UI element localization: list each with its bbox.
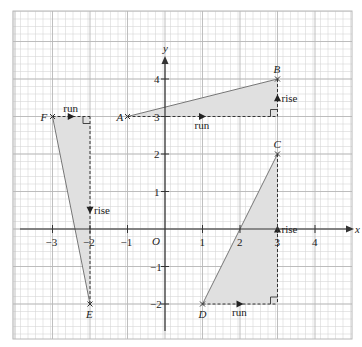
point-label-A: A (116, 111, 124, 123)
origin-label: O (152, 235, 160, 247)
x-tick-label: −1 (121, 236, 133, 248)
x-tick-label: −2 (83, 236, 95, 248)
point-label-C: C (274, 138, 282, 150)
y-tick-label: 4 (154, 73, 160, 85)
point-label-D: D (198, 308, 207, 320)
triangle-AB (128, 79, 282, 120)
y-tick-label: 1 (154, 186, 160, 198)
rise-label: rise (94, 204, 110, 216)
x-tick-label: 2 (237, 236, 243, 248)
run-label: run (195, 119, 210, 131)
y-tick-label: −1 (150, 261, 162, 273)
run-label: run (63, 102, 78, 114)
slope-triangles (53, 79, 282, 308)
rise-label: rise (282, 223, 298, 235)
y-tick-label: −2 (150, 298, 162, 310)
x-tick-label: −3 (46, 236, 58, 248)
y-tick-label: 3 (154, 111, 160, 123)
point-label-F: F (40, 111, 48, 123)
run-label: run (232, 306, 247, 318)
rise-label: rise (282, 92, 298, 104)
x-tick-label: 4 (312, 236, 318, 248)
x-tick-label: 1 (200, 236, 206, 248)
triangle-DC (203, 154, 282, 308)
point-label-B: B (274, 63, 281, 75)
coordinate-diagram: runriserunriserunrisexyO−3−2−112344321−1… (0, 0, 362, 347)
y-tick-label: 2 (154, 148, 160, 160)
y-axis-label: y (162, 42, 168, 54)
point-label-E: E (85, 308, 93, 320)
x-tick-label: 3 (275, 236, 281, 248)
x-axis-label: x (354, 223, 360, 235)
